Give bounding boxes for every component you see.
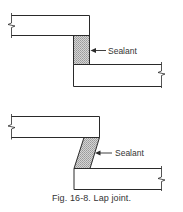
diagram-square-lap-joint: Sealant (8, 13, 165, 88)
sealant-callout: Sealant (95, 148, 144, 158)
sealant-label: Sealant (115, 148, 144, 158)
arrow-left-icon (95, 151, 101, 156)
lower-plate (74, 166, 165, 191)
sealant-callout: Sealant (91, 46, 138, 56)
upper-plate (8, 114, 100, 140)
upper-plate (8, 13, 90, 38)
lower-plate (74, 62, 166, 88)
sealant-label: Sealant (108, 46, 137, 56)
figure-caption: Fig. 16-8. Lap joint. (0, 193, 183, 203)
sealant-bead (74, 36, 90, 65)
lap-joint-figure: Sealant Sealant (0, 0, 183, 212)
diagram-angled-lap-joint: Sealant (8, 114, 165, 191)
arrow-left-icon (91, 48, 97, 53)
